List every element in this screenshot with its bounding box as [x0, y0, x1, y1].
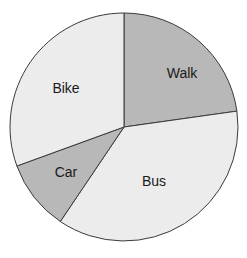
label-car: Car: [55, 164, 78, 180]
label-walk: Walk: [167, 65, 199, 81]
label-bus: Bus: [142, 173, 166, 189]
label-bike: Bike: [52, 80, 79, 96]
pie-chart: Walk Bus Car Bike: [0, 0, 247, 258]
